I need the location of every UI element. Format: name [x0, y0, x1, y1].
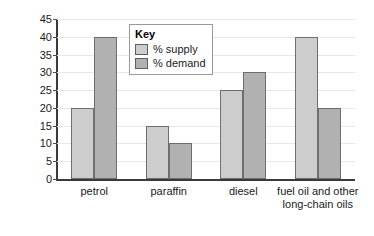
x-axis-category-label: fuel oil and other long-chain oils: [273, 185, 364, 211]
legend-swatch: [135, 44, 148, 55]
y-axis-tick: [53, 143, 57, 144]
y-axis-tick-labels: 454035302520151050: [30, 0, 52, 236]
bar: [146, 126, 169, 179]
y-axis-tick: [53, 55, 57, 56]
bar: [220, 90, 243, 179]
y-axis-tick: [53, 179, 57, 180]
bar: [94, 37, 117, 179]
bar: [169, 143, 192, 179]
y-axis-tick-label: 45: [32, 14, 52, 25]
legend-entries: % supply% demand: [135, 42, 206, 70]
y-axis-tick: [53, 126, 57, 127]
bar: [295, 37, 318, 179]
y-axis-tick: [53, 161, 57, 162]
bar: [71, 108, 94, 179]
legend-label: % demand: [153, 57, 206, 69]
y-axis-tick: [53, 108, 57, 109]
y-axis-tick-label: 10: [32, 138, 52, 149]
bar-chart: Percentage 454035302520151050 petrolpara…: [0, 0, 374, 236]
y-axis-tick-label: 20: [32, 102, 52, 113]
y-axis-tick-label: 40: [32, 31, 52, 42]
y-axis-tick-label: 5: [32, 156, 52, 167]
gridline: [57, 19, 355, 20]
y-axis-tick-label: 25: [32, 85, 52, 96]
y-axis-tick: [53, 37, 57, 38]
x-axis-line: [56, 179, 355, 181]
y-axis-tick: [53, 72, 57, 73]
bar: [243, 72, 266, 179]
y-axis-tick-label: 30: [32, 67, 52, 78]
legend-key: Key % supply% demand: [129, 24, 213, 75]
legend-title: Key: [135, 28, 206, 40]
legend-label: % supply: [153, 43, 198, 55]
y-axis-tick-label: 0: [32, 174, 52, 185]
y-axis-tick: [53, 90, 57, 91]
y-axis-tick-label: 35: [32, 49, 52, 60]
bar: [318, 108, 341, 179]
y-axis-tick-label: 15: [32, 120, 52, 131]
legend-entry: % supply: [135, 42, 206, 56]
legend-swatch: [135, 58, 148, 69]
y-axis-tick: [53, 19, 57, 20]
legend-entry: % demand: [135, 56, 206, 70]
